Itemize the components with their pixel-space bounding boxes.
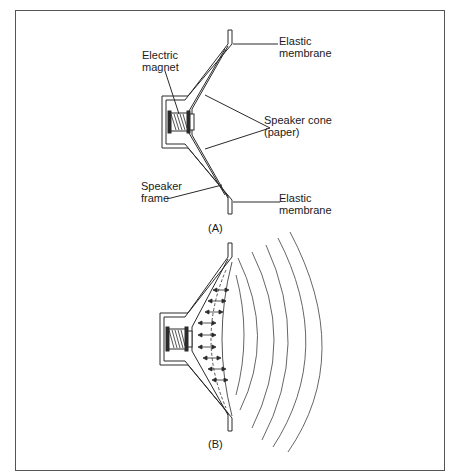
caption-b: (B) — [208, 438, 223, 450]
speaker-diagram-b — [0, 0, 455, 474]
sound-waves — [236, 232, 322, 452]
